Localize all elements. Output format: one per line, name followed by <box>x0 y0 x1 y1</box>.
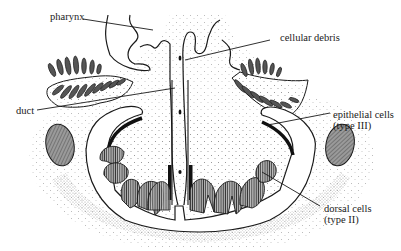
label-epithelial-cells: epithelial cells <box>333 109 394 120</box>
label-duct: duct <box>16 105 34 116</box>
label-cellular-debris: cellular debris <box>280 32 340 43</box>
label-pharynx: pharynx <box>50 11 84 22</box>
label-dorsal-cells-type: (type II) <box>324 214 359 225</box>
label-epithelial-cells-type: (type III) <box>333 120 371 131</box>
label-dorsal-cells: dorsal cells <box>324 203 372 214</box>
